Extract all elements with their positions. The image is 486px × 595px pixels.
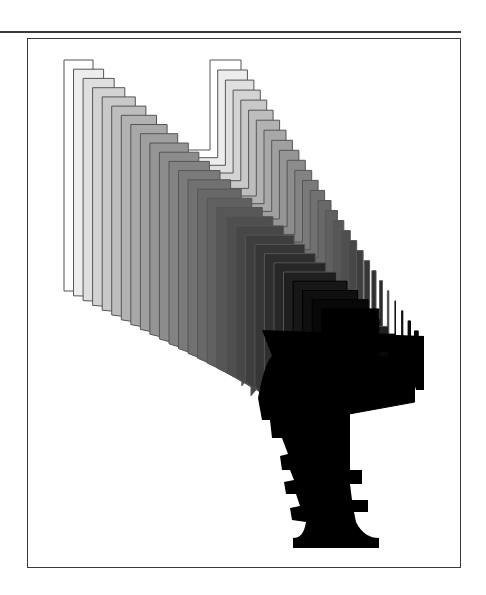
morph-figure <box>0 0 486 595</box>
morph-layers <box>64 60 418 485</box>
